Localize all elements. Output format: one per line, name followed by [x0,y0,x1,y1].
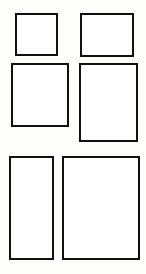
panel-2x1[interactable] [80,13,134,57]
panel-3x4[interactable] [62,156,140,260]
panel-1x4[interactable] [9,156,54,260]
panel-outline [10,157,53,259]
panel-outline [16,14,57,55]
panel-2x2[interactable] [11,63,69,127]
panel-2x3[interactable] [79,63,138,142]
panel-1x1[interactable] [15,13,58,56]
panel-outline [81,14,133,56]
panel-outline [63,157,139,259]
pattern-sheet [0,0,146,274]
panel-outline [80,64,137,141]
panel-outline [12,64,68,126]
